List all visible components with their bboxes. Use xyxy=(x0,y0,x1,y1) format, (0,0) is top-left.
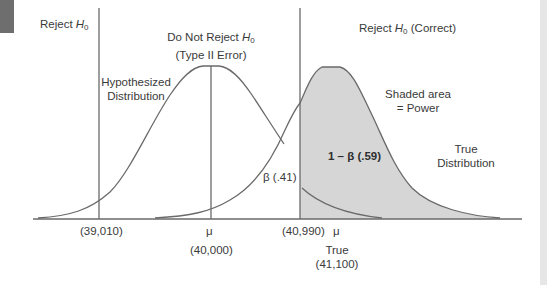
power-value-label: 1 – β (.59) xyxy=(328,149,381,163)
true-mu-symbol: μ xyxy=(333,224,340,238)
left-reject-region-label: Reject H0 xyxy=(40,17,89,35)
true-mu-label: True (41,100) xyxy=(315,243,359,271)
hypothesized-mu-symbol: μ xyxy=(206,224,213,238)
beta-value-label: β (.41) xyxy=(263,170,296,184)
hypothesized-distribution-label: Hypothesized Distribution xyxy=(100,75,172,103)
true-distribution-label: True Distribution xyxy=(426,142,506,170)
shaded-area-power-label: Shaded area = Power xyxy=(382,87,454,115)
hypothesized-mu-value: (40,000) xyxy=(190,243,233,257)
do-not-reject-region-label: Do Not Reject H0 (Type II Error) xyxy=(162,30,260,62)
right-reject-region-label: Reject H0 (Correct) xyxy=(359,21,456,39)
upper-critical-value: (40,990) xyxy=(282,224,325,238)
lower-critical-value: (39,010) xyxy=(80,224,123,238)
